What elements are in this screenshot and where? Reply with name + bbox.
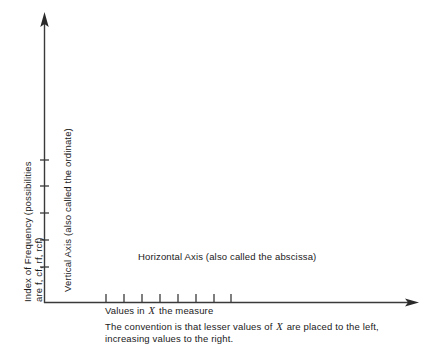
x-axis-ticks (106, 294, 231, 302)
y-axis-outer-label-line1: Index of Frequency (possibilities (22, 161, 33, 302)
convention-note-variable: X (275, 321, 284, 332)
x-axis-values-suffix: the measure (159, 305, 213, 316)
x-axis-values-label: Values in X the measure (105, 305, 213, 316)
convention-note-part1: The convention is that lesser values of (105, 321, 272, 332)
y-axis-outer-label-line2: are f, cf, rf, rcf) (33, 161, 44, 302)
figure-canvas: Index of Frequency (possibilities are f,… (0, 0, 425, 348)
x-axis-variable: X (148, 305, 157, 316)
y-axis-outer-label: Index of Frequency (possibilities are f,… (22, 161, 44, 302)
convention-note: The convention is that lesser values of … (105, 321, 405, 344)
x-axis-values-prefix: Values in (105, 305, 145, 316)
y-axis-inner-label: Vertical Axis (also called the ordinate) (62, 128, 73, 292)
x-axis-caption: Horizontal Axis (also called the absciss… (138, 251, 316, 262)
